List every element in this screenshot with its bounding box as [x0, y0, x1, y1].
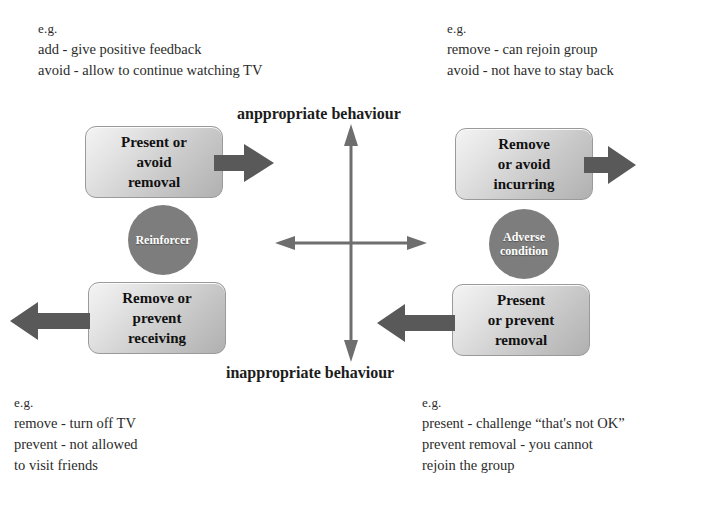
example-text-top-right: e.g. remove - can rejoin group avoid - n…: [447, 18, 614, 81]
box-line: removal: [128, 172, 180, 192]
example-text-bottom-right: e.g. present - challenge “that's not OK”…: [422, 392, 625, 476]
example-line: avoid - allow to continue watching TV: [38, 60, 262, 81]
box-line: Remove or: [122, 288, 192, 308]
box-remove-or-avoid-incurring[interactable]: Remove or avoid incurring: [455, 128, 593, 200]
example-heading: e.g.: [422, 392, 625, 413]
circle-line: Adverse: [500, 230, 548, 244]
example-line: remove - can rejoin group: [447, 39, 614, 60]
circle-line: Reinforcer: [135, 233, 190, 247]
example-text-bottom-left: e.g. remove - turn off TV prevent - not …: [14, 392, 138, 476]
box-present-or-prevent-removal[interactable]: Present or prevent removal: [452, 284, 590, 356]
example-heading: e.g.: [38, 18, 262, 39]
example-line: present - challenge “that's not OK”: [422, 413, 625, 434]
example-line: to visit friends: [14, 455, 138, 476]
example-line: rejoin the group: [422, 455, 625, 476]
circle-line: condition: [500, 244, 548, 258]
box-remove-or-prevent-receiving[interactable]: Remove or prevent receiving: [88, 282, 226, 354]
example-heading: e.g.: [14, 392, 138, 413]
box-line: Remove: [498, 134, 550, 154]
arrow-right-icon-top-right: [584, 144, 638, 186]
example-line: add - give positive feedback: [38, 39, 262, 60]
box-line: Present: [497, 290, 545, 310]
box-line: or prevent: [488, 310, 555, 330]
example-line: prevent removal - you cannot: [422, 434, 625, 455]
box-line: avoid: [136, 152, 171, 172]
axis-label-top: anppropriate behaviour: [237, 105, 401, 123]
example-heading: e.g.: [447, 18, 614, 39]
example-text-top-left: e.g. add - give positive feedback avoid …: [38, 18, 262, 81]
example-line: avoid - not have to stay back: [447, 60, 614, 81]
example-line: remove - turn off TV: [14, 413, 138, 434]
diagram-canvas: e.g. add - give positive feedback avoid …: [0, 0, 703, 506]
arrow-right-icon-top-left: [214, 142, 276, 184]
box-present-or-avoid-removal[interactable]: Present or avoid removal: [85, 126, 223, 198]
arrow-left-icon-bottom-left: [8, 300, 90, 342]
box-line: incurring: [494, 174, 555, 194]
box-line: Present or: [121, 132, 187, 152]
axis-label-bottom: inappropriate behaviour: [226, 364, 394, 382]
box-line: or avoid: [498, 154, 551, 174]
box-line: prevent: [133, 308, 182, 328]
arrow-left-icon-bottom-right: [375, 302, 455, 344]
circle-adverse-condition[interactable]: Adverse condition: [489, 209, 559, 279]
box-line: receiving: [128, 328, 186, 348]
circle-reinforcer[interactable]: Reinforcer: [128, 205, 198, 275]
example-line: prevent - not allowed: [14, 434, 138, 455]
box-line: removal: [495, 330, 547, 350]
